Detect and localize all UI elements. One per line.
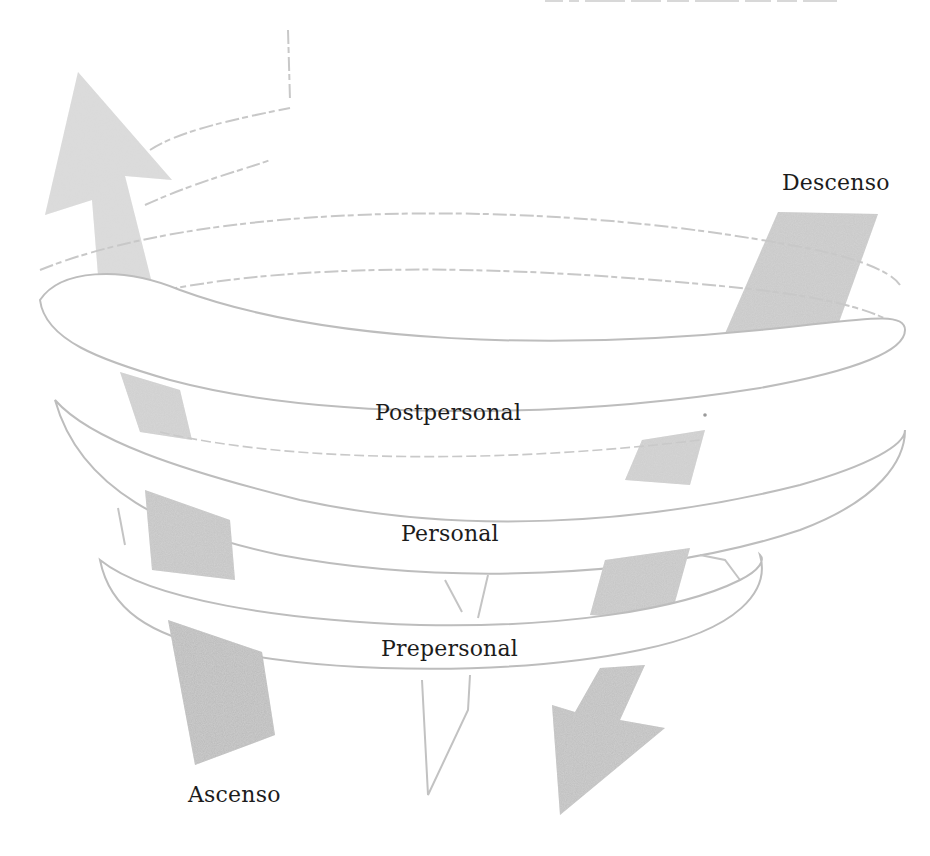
descent-arrow-head bbox=[552, 665, 665, 815]
ascent-arrow-upper bbox=[45, 72, 172, 300]
label-prepersonal: Prepersonal bbox=[381, 636, 518, 661]
label-descent: Descenso bbox=[782, 170, 890, 195]
center-outline-tail bbox=[422, 675, 470, 795]
stray-dot bbox=[703, 413, 707, 417]
label-personal: Personal bbox=[401, 521, 499, 546]
label-ascent: Ascenso bbox=[188, 782, 281, 807]
spiral-diagram bbox=[0, 0, 930, 856]
label-postpersonal: Postpersonal bbox=[375, 400, 521, 425]
